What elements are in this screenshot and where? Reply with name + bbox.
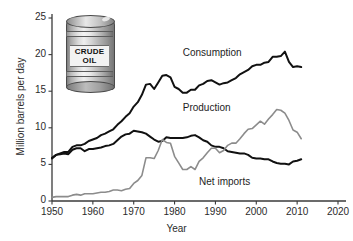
- y-tick-label-5: 5: [24, 157, 46, 168]
- series-label-production: Production: [183, 102, 231, 113]
- y-tick-label-15: 15: [24, 84, 46, 95]
- x-tick-label-1980: 1980: [159, 206, 191, 217]
- y-tick-label-10: 10: [24, 121, 46, 132]
- series-layer: [52, 52, 301, 198]
- oil-chart-figure: 0 5 10 15 20 25 1950 1960 1970 1980 1990…: [0, 0, 353, 241]
- x-tick-label-1960: 1960: [77, 206, 109, 217]
- x-tick-label-1990: 1990: [199, 206, 231, 217]
- y-tick-label-20: 20: [24, 48, 46, 59]
- y-tick-label-0: 0: [24, 194, 46, 205]
- y-tick-label-25: 25: [24, 11, 46, 22]
- series-label-net-imports: Net imports: [199, 176, 250, 187]
- x-tick-label-2000: 2000: [240, 206, 272, 217]
- series-label-consumption: Consumption: [183, 47, 242, 58]
- x-axis-title: Year: [0, 223, 353, 234]
- clipped-caption: [8, 236, 308, 240]
- x-tick-label-2010: 2010: [281, 206, 313, 217]
- x-tick-label-1950: 1950: [36, 206, 68, 217]
- x-tick-label-2020: 2020: [322, 206, 353, 217]
- x-tick-label-1970: 1970: [118, 206, 150, 217]
- chart-plot-area: [0, 0, 353, 241]
- y-axis-title: Million barrels per day: [15, 47, 26, 167]
